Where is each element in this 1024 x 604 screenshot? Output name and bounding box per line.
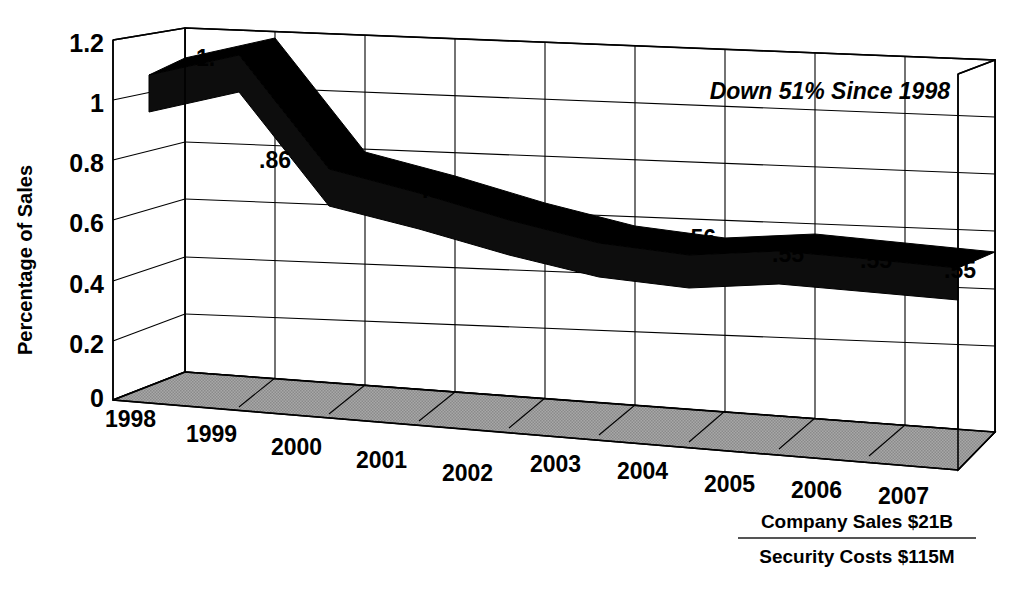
x-tick-label: 2003 bbox=[530, 451, 581, 477]
data-label: .55 bbox=[772, 241, 804, 267]
footer-security-costs: Security Costs $115M bbox=[759, 546, 954, 567]
annotation-text: Down 51% Since 1998 bbox=[710, 78, 951, 104]
x-tick-label: 2002 bbox=[442, 460, 493, 486]
x-tick-label: 1999 bbox=[186, 421, 237, 447]
y-axis-title: Percentage of Sales bbox=[14, 165, 36, 355]
data-label: .55 bbox=[944, 257, 976, 283]
area-chart-3d: 1.2 1 0.8 0.6 0.4 0.2 0 Percentage of Sa… bbox=[0, 0, 1024, 604]
footer-block: Company Sales $21B Security Costs $115M bbox=[738, 511, 976, 567]
x-tick-label: 2006 bbox=[791, 477, 842, 503]
y-tick-label: 1.2 bbox=[69, 29, 104, 57]
data-label: .55 bbox=[860, 247, 892, 273]
data-label: .56 bbox=[684, 225, 716, 251]
y-axis-ticks: 1.2 1 0.8 0.6 0.4 0.2 0 bbox=[69, 29, 104, 412]
data-label: .69 bbox=[329, 146, 361, 172]
x-tick-label: 2004 bbox=[617, 458, 668, 484]
data-label: .58 bbox=[509, 199, 541, 225]
annotation-callout: Down 51% Since 1998 bbox=[710, 78, 951, 104]
y-tick-label: 0.4 bbox=[69, 270, 104, 298]
x-tick-label: 2000 bbox=[271, 434, 322, 460]
footer-company-sales: Company Sales $21B bbox=[761, 511, 953, 532]
y-axis-title-text: Percentage of Sales bbox=[14, 165, 36, 355]
x-tick-label: 2001 bbox=[356, 447, 407, 473]
y-tick-label: 0.2 bbox=[69, 330, 104, 358]
data-label: .55 bbox=[601, 223, 633, 249]
x-tick-label: 2007 bbox=[878, 483, 929, 509]
chart-figure: 1.2 1 0.8 0.6 0.4 0.2 0 Percentage of Sa… bbox=[0, 0, 1024, 604]
y-tick-label: 0.8 bbox=[69, 149, 104, 177]
y-tick-label: 0.6 bbox=[69, 209, 104, 237]
x-tick-label: 1998 bbox=[105, 406, 156, 432]
y-tick-label: 1 bbox=[90, 89, 104, 117]
x-tick-label: 2005 bbox=[704, 471, 755, 497]
y-tick-label: 0 bbox=[90, 384, 104, 412]
data-label: .86 bbox=[259, 147, 291, 173]
data-label: 1. bbox=[196, 45, 215, 71]
data-label: .66 bbox=[422, 177, 454, 203]
